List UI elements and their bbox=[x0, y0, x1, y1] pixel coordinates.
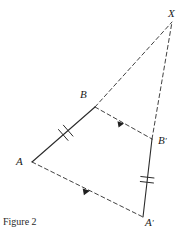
vertex-label-a-prime-mark: ′ bbox=[152, 218, 154, 228]
dashed-line-bprime-to-x bbox=[152, 22, 172, 139]
dashed-line-a-to-aprime bbox=[32, 162, 143, 217]
vertex-label-b-prime-mark: ′ bbox=[165, 136, 167, 146]
vertex-label-b-prime: B′ bbox=[158, 135, 167, 146]
vertex-label-a: A bbox=[16, 156, 23, 167]
vertex-label-a-prime-base: A bbox=[145, 216, 152, 228]
dashed-line-b-to-bprime bbox=[95, 107, 152, 139]
figure-caption: Figure 2 bbox=[3, 216, 37, 227]
arrowhead-a-to-aprime bbox=[83, 189, 90, 196]
vertex-label-x: X bbox=[168, 8, 175, 19]
geometry-diagram bbox=[0, 0, 185, 232]
vertex-label-a-prime: A′ bbox=[145, 217, 154, 228]
vertex-label-b-prime-base: B bbox=[158, 134, 165, 146]
dashed-line-b-to-x bbox=[95, 22, 172, 107]
arrowhead-b-to-bprime bbox=[118, 121, 125, 127]
figure-container: X B B′ A A′ Figure 2 bbox=[0, 0, 185, 232]
vertex-label-b: B bbox=[80, 89, 87, 100]
